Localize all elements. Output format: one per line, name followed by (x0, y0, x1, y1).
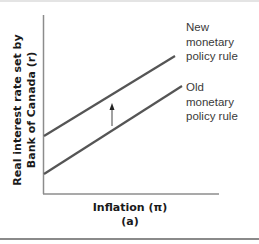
new-policy-rule-line (44, 56, 175, 136)
shift-up-arrow-icon (110, 103, 115, 126)
new-rule-label-line3: policy rule (186, 49, 238, 64)
y-axis-label-line2: Bank of Canada (r) (25, 20, 39, 200)
new-rule-label-line1: New (186, 20, 238, 35)
new-rule-label: New monetary policy rule (186, 20, 238, 64)
old-rule-label-line1: Old (186, 80, 238, 95)
y-axis-label: Real interest rate set by Bank of Canada… (11, 20, 39, 200)
old-rule-label: Old monetary policy rule (186, 80, 238, 124)
bottom-divider (0, 238, 259, 240)
new-rule-label-line2: monetary (186, 35, 238, 50)
old-rule-label-line3: policy rule (186, 109, 238, 124)
y-axis-label-line1: Real interest rate set by (11, 20, 25, 200)
panel-label: (a) (70, 215, 190, 228)
old-rule-label-line2: monetary (186, 95, 238, 110)
x-axis-label: Inflation (π) (70, 201, 190, 214)
old-policy-rule-line (44, 86, 182, 174)
